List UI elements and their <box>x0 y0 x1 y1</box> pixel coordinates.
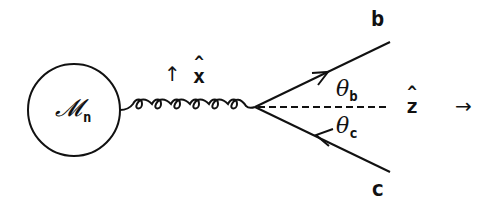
theta-b-subscript: b <box>349 88 357 104</box>
up-arrow-icon: ↑ <box>164 64 181 84</box>
blob-subscript: n <box>83 109 91 125</box>
theta-b-symbol: θ <box>336 76 349 101</box>
blob-symbol: 𝓜 <box>55 94 82 122</box>
theta-c-symbol: θ <box>336 113 349 138</box>
blob-label: 𝓜n <box>55 96 90 120</box>
z-hat-text: z <box>406 96 418 116</box>
x-hat-text: x <box>193 66 205 86</box>
feynman-diagram: 𝓜n ↑ x b θb θc c z → <box>0 0 499 203</box>
particle-b-label: b <box>371 8 384 30</box>
theta-c-label: θc <box>336 115 358 137</box>
gluon-line <box>120 100 255 111</box>
right-arrow-icon: → <box>455 96 472 116</box>
particle-b-line <box>255 42 390 107</box>
z-hat-label: z <box>406 96 418 116</box>
x-hat-label: x <box>193 66 205 86</box>
particle-c-label: c <box>371 178 384 200</box>
theta-b-label: θb <box>336 78 358 100</box>
theta-c-subscript: c <box>349 125 357 141</box>
